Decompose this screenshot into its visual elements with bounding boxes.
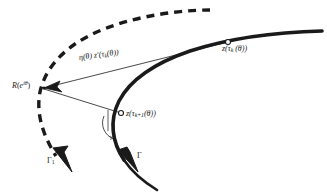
label-gamma: Γ — [137, 152, 142, 160]
marker-R-e-i-theta — [42, 86, 45, 89]
marker-z-tau-k-plus-1 — [119, 111, 124, 116]
figure-canvas: R(eiθ) η(θ) z′(τk(θ)) z(τk (θ)) z(τk+1(θ… — [0, 0, 327, 196]
diagram-svg — [0, 0, 327, 196]
label-z-tau-k-plus-1: z(τk+1(θ)) — [126, 110, 156, 119]
label-R-e-i-theta: R(eiθ) — [12, 81, 30, 90]
arrowhead-vector — [44, 81, 62, 92]
label-z-tau-k: z(τk (θ)) — [222, 45, 247, 54]
gamma-solid-curve-tail — [124, 160, 157, 190]
label-gamma-one: Γ1 — [47, 157, 55, 166]
gamma-solid-curve — [113, 31, 322, 160]
chord-to-z-tau-k-plus-1 — [44, 89, 121, 113]
label-angle: γ — [110, 134, 113, 141]
arrowhead-gamma — [118, 147, 138, 172]
arrowhead-gamma-one — [53, 146, 72, 172]
